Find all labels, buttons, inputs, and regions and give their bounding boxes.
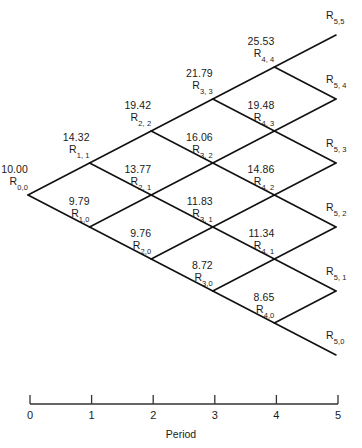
period-axis	[0, 0, 362, 448]
axis-title: Period	[0, 428, 362, 440]
axis-tick-label: 2	[143, 409, 163, 421]
axis-tick-label: 5	[328, 409, 348, 421]
axis-group	[30, 395, 338, 404]
axis-tick-label: 1	[82, 409, 102, 421]
axis-tick-label: 4	[266, 409, 286, 421]
axis-tick-label: 0	[20, 409, 40, 421]
binomial-lattice-figure: 10.00R0,014.32R1, 19.79R1,019.42R2, 213.…	[0, 0, 362, 448]
axis-tick-label: 3	[205, 409, 225, 421]
